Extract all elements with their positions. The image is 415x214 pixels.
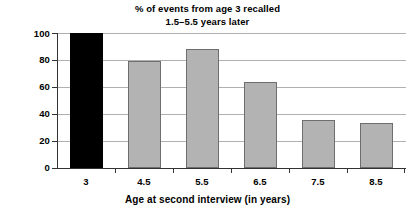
- bar-age-8-5[interactable]: [360, 123, 393, 168]
- x-tick-label-5-5: 5.5: [173, 176, 231, 187]
- x-tick-mark-4: [289, 168, 290, 173]
- x-tick-label-6-5: 6.5: [231, 176, 289, 187]
- bar-slot-8-5: [347, 33, 405, 168]
- y-tick-label-60: 60: [20, 81, 50, 92]
- x-tick-label-8-5: 8.5: [347, 176, 405, 187]
- bar-slot-3: [57, 33, 115, 168]
- y-tick-label-100: 100: [20, 28, 50, 39]
- bar-slot-4-5: [115, 33, 173, 168]
- x-axis-title: Age at second interview (in years): [0, 194, 415, 205]
- y-tick-label-40: 40: [20, 108, 50, 119]
- bar-slot-6-5: [231, 33, 289, 168]
- y-tick-label-0: 0: [20, 162, 50, 173]
- x-tick-mark-2: [173, 168, 174, 173]
- chart-title-line-2: 1.5–5.5 years later: [0, 15, 415, 28]
- x-tick-mark-1: [115, 168, 116, 173]
- bar-age-3[interactable]: [70, 33, 103, 168]
- x-tick-mark-5: [347, 168, 348, 173]
- x-axis-tick-labels: 3 4.5 5.5 6.5 7.5 8.5: [57, 176, 405, 187]
- bar-series: [57, 33, 405, 168]
- x-tick-label-3: 3: [57, 176, 115, 187]
- bar-slot-5-5: [173, 33, 231, 168]
- bar-slot-7-5: [289, 33, 347, 168]
- x-tick-label-7-5: 7.5: [289, 176, 347, 187]
- y-tick-label-80: 80: [20, 54, 50, 65]
- bar-age-4-5[interactable]: [128, 61, 161, 168]
- chart-title-line-1: % of events from age 3 recalled: [0, 2, 415, 15]
- bar-age-6-5[interactable]: [244, 82, 277, 168]
- x-tick-label-4-5: 4.5: [115, 176, 173, 187]
- y-tick-label-20: 20: [20, 135, 50, 146]
- x-tick-mark-3: [231, 168, 232, 173]
- bar-chart-figure: % of events from age 3 recalled 1.5–5.5 …: [0, 0, 415, 214]
- chart-title: % of events from age 3 recalled 1.5–5.5 …: [0, 2, 415, 28]
- x-tick-mark-6: [404, 168, 405, 173]
- bar-age-7-5[interactable]: [302, 120, 335, 168]
- bar-age-5-5[interactable]: [186, 49, 219, 168]
